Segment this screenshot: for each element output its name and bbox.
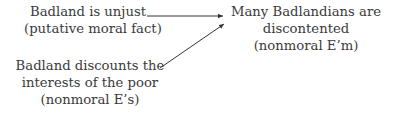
- arrow-n3-to-n2: [160, 24, 224, 68]
- edges-layer: [0, 0, 393, 114]
